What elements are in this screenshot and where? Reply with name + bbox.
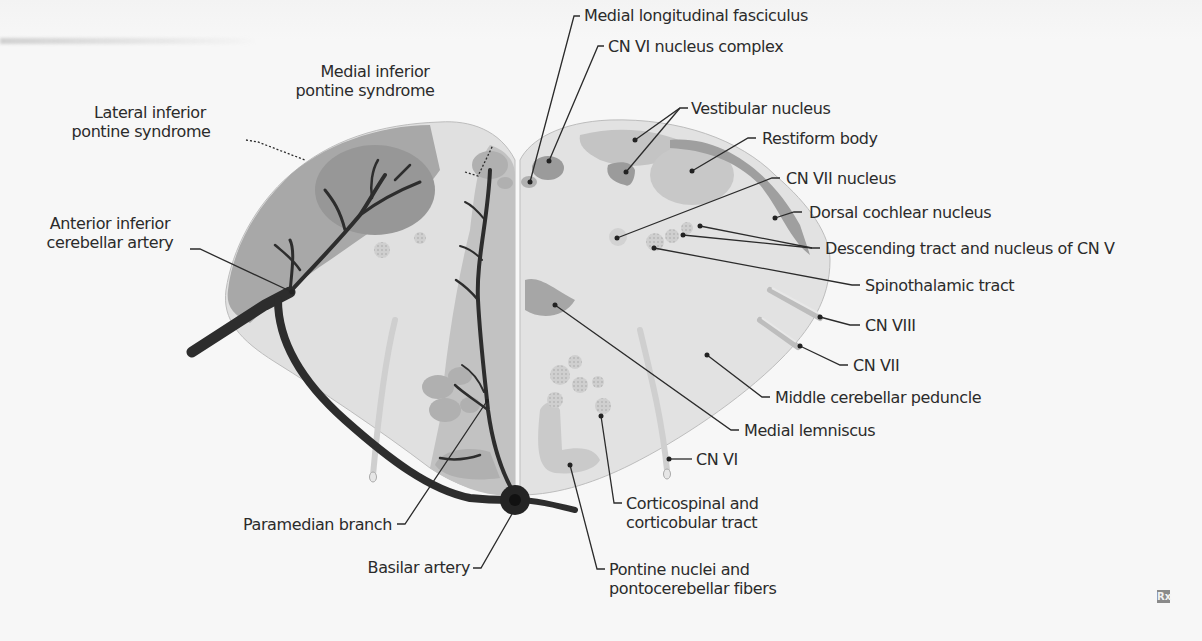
rx-watermark-icon: Rx [1157,590,1170,603]
label-cn6: CN VI [696,450,738,469]
label-dorsal-cochlear: Dorsal cochlear nucleus [809,203,991,222]
label-pontine-nuclei: Pontine nuclei and pontocerebellar fiber… [609,560,776,598]
label-cn6-nucleus: CN VI nucleus complex [608,37,783,56]
label-line: pontine syndrome [32,122,250,141]
label-line: Lateral inferior [50,103,250,122]
label-cn7: CN VII [853,356,899,375]
label-cn8: CN VIII [865,316,916,335]
label-line: pontocerebellar fibers [609,579,776,598]
label-vestibular-nucleus: Vestibular nucleus [691,99,830,118]
label-basilar-artery: Basilar artery [320,558,470,577]
label-line: Pontine nuclei and [609,560,776,579]
label-line: Corticospinal and [626,494,759,513]
label-paramedian-branch: Paramedian branch [200,515,392,534]
label-lateral-syndrome: Lateral inferior pontine syndrome [50,103,250,141]
label-mlf: Medial longitudinal fasciculus [584,6,808,25]
label-restiform-body: Restiform body [762,129,878,148]
label-medial-syndrome: Medial inferior pontine syndrome [275,62,475,100]
label-middle-cerebellar-peduncle: Middle cerebellar peduncle [775,388,981,407]
label-cn7-nucleus: CN VII nucleus [786,169,896,188]
label-line: corticobular tract [626,513,759,532]
label-line: Medial inferior [275,62,475,81]
label-line: cerebellar artery [30,233,190,252]
label-line: pontine syndrome [255,81,475,100]
label-medial-lemniscus: Medial lemniscus [744,421,875,440]
label-corticospinal: Corticospinal and corticobular tract [626,494,759,532]
label-spinothalamic: Spinothalamic tract [865,276,1014,295]
label-aica: Anterior inferior cerebellar artery [30,214,190,252]
label-descending-cn5: Descending tract and nucleus of CN V [825,239,1114,258]
pons-diagram [0,0,1202,641]
label-line: Anterior inferior [30,214,190,233]
